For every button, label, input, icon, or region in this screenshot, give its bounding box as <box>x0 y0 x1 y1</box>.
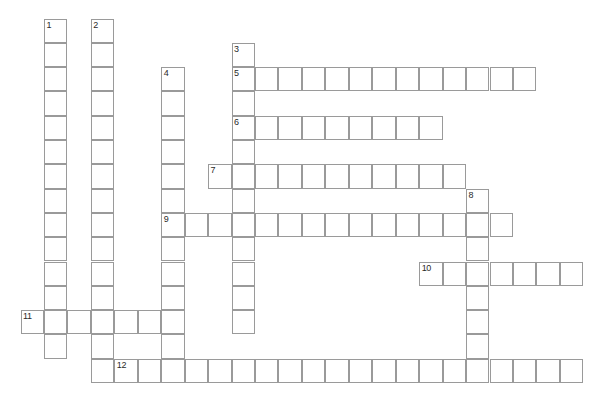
crossword-cell[interactable] <box>255 359 278 383</box>
crossword-cell[interactable] <box>443 213 466 237</box>
crossword-cell[interactable] <box>91 237 114 261</box>
crossword-cell-numbered[interactable]: 5 <box>232 67 255 91</box>
crossword-cell[interactable] <box>302 67 325 91</box>
crossword-cell-numbered[interactable]: 11 <box>21 310 44 334</box>
crossword-cell[interactable] <box>161 334 184 358</box>
crossword-cell[interactable] <box>44 164 67 188</box>
crossword-cell[interactable] <box>396 359 419 383</box>
crossword-cell[interactable] <box>536 359 559 383</box>
crossword-grid-layer[interactable]: 123456789101112 <box>0 0 600 394</box>
crossword-cell[interactable] <box>466 286 489 310</box>
crossword-cell-numbered[interactable]: 4 <box>161 67 184 91</box>
crossword-cell[interactable] <box>208 213 231 237</box>
crossword-cell[interactable] <box>161 140 184 164</box>
crossword-cell[interactable] <box>44 334 67 358</box>
crossword-cell[interactable] <box>396 116 419 140</box>
crossword-cell[interactable] <box>443 164 466 188</box>
crossword-cell[interactable] <box>161 286 184 310</box>
crossword-cell[interactable] <box>349 116 372 140</box>
crossword-cell[interactable] <box>372 359 395 383</box>
crossword-cell[interactable] <box>513 359 536 383</box>
crossword-cell-numbered[interactable]: 9 <box>161 213 184 237</box>
crossword-cell[interactable] <box>161 310 184 334</box>
crossword-cell[interactable] <box>185 359 208 383</box>
crossword-cell[interactable] <box>91 286 114 310</box>
crossword-cell[interactable] <box>349 213 372 237</box>
crossword-cell[interactable] <box>161 116 184 140</box>
crossword-cell[interactable] <box>91 91 114 115</box>
crossword-cell[interactable] <box>466 334 489 358</box>
crossword-cell-numbered[interactable]: 2 <box>91 19 114 43</box>
crossword-cell[interactable] <box>490 67 513 91</box>
crossword-cell[interactable] <box>208 359 231 383</box>
crossword-cell[interactable] <box>560 262 583 286</box>
crossword-cell[interactable] <box>349 164 372 188</box>
crossword-cell[interactable] <box>278 164 301 188</box>
crossword-cell[interactable] <box>138 359 161 383</box>
crossword-cell[interactable] <box>161 164 184 188</box>
crossword-cell[interactable] <box>91 310 114 334</box>
crossword-cell[interactable] <box>278 213 301 237</box>
crossword-cell[interactable] <box>91 359 114 383</box>
crossword-cell[interactable] <box>232 286 255 310</box>
crossword-cell[interactable] <box>490 359 513 383</box>
crossword-cell[interactable] <box>325 359 348 383</box>
crossword-cell[interactable] <box>443 359 466 383</box>
crossword-cell[interactable] <box>185 213 208 237</box>
crossword-cell[interactable] <box>443 67 466 91</box>
crossword-cell[interactable] <box>91 164 114 188</box>
crossword-cell[interactable] <box>114 310 137 334</box>
crossword-cell[interactable] <box>232 262 255 286</box>
crossword-cell[interactable] <box>232 91 255 115</box>
crossword-cell[interactable] <box>91 213 114 237</box>
crossword-cell-numbered[interactable]: 1 <box>44 19 67 43</box>
crossword-cell[interactable] <box>302 213 325 237</box>
crossword-cell-numbered[interactable]: 6 <box>232 116 255 140</box>
crossword-cell[interactable] <box>325 116 348 140</box>
crossword-cell[interactable] <box>44 140 67 164</box>
crossword-cell[interactable] <box>161 359 184 383</box>
crossword-cell[interactable] <box>44 91 67 115</box>
crossword-cell[interactable] <box>325 213 348 237</box>
crossword-cell-numbered[interactable]: 12 <box>114 359 137 383</box>
crossword-cell[interactable] <box>419 116 442 140</box>
crossword-cell[interactable] <box>91 262 114 286</box>
crossword-cell[interactable] <box>44 189 67 213</box>
crossword-cell[interactable] <box>466 237 489 261</box>
crossword-cell[interactable] <box>302 164 325 188</box>
crossword-cell[interactable] <box>232 359 255 383</box>
crossword-cell[interactable] <box>419 359 442 383</box>
crossword-cell[interactable] <box>466 262 489 286</box>
crossword-cell[interactable] <box>232 213 255 237</box>
crossword-cell[interactable] <box>536 262 559 286</box>
crossword-cell[interactable] <box>44 310 67 334</box>
crossword-cell[interactable] <box>138 310 161 334</box>
crossword-cell[interactable] <box>255 116 278 140</box>
crossword-cell[interactable] <box>161 237 184 261</box>
crossword-cell[interactable] <box>278 359 301 383</box>
crossword-cell[interactable] <box>44 262 67 286</box>
crossword-cell[interactable] <box>255 213 278 237</box>
crossword-cell[interactable] <box>161 189 184 213</box>
crossword-cell[interactable] <box>513 67 536 91</box>
crossword-cell[interactable] <box>513 262 536 286</box>
crossword-cell[interactable] <box>419 213 442 237</box>
crossword-cell[interactable] <box>91 334 114 358</box>
crossword-cell-numbered[interactable]: 7 <box>208 164 231 188</box>
crossword-cell[interactable] <box>325 164 348 188</box>
crossword-cell[interactable] <box>396 67 419 91</box>
crossword-cell[interactable] <box>372 164 395 188</box>
crossword-cell[interactable] <box>349 67 372 91</box>
crossword-cell[interactable] <box>232 310 255 334</box>
crossword-cell[interactable] <box>466 359 489 383</box>
crossword-cell[interactable] <box>466 213 489 237</box>
crossword-cell[interactable] <box>490 262 513 286</box>
crossword-cell[interactable] <box>396 213 419 237</box>
crossword-cell[interactable] <box>91 140 114 164</box>
crossword-cell[interactable] <box>44 286 67 310</box>
crossword-cell[interactable] <box>325 67 348 91</box>
crossword-cell[interactable] <box>466 67 489 91</box>
crossword-cell[interactable] <box>278 116 301 140</box>
crossword-cell[interactable] <box>302 116 325 140</box>
crossword-cell[interactable] <box>161 262 184 286</box>
